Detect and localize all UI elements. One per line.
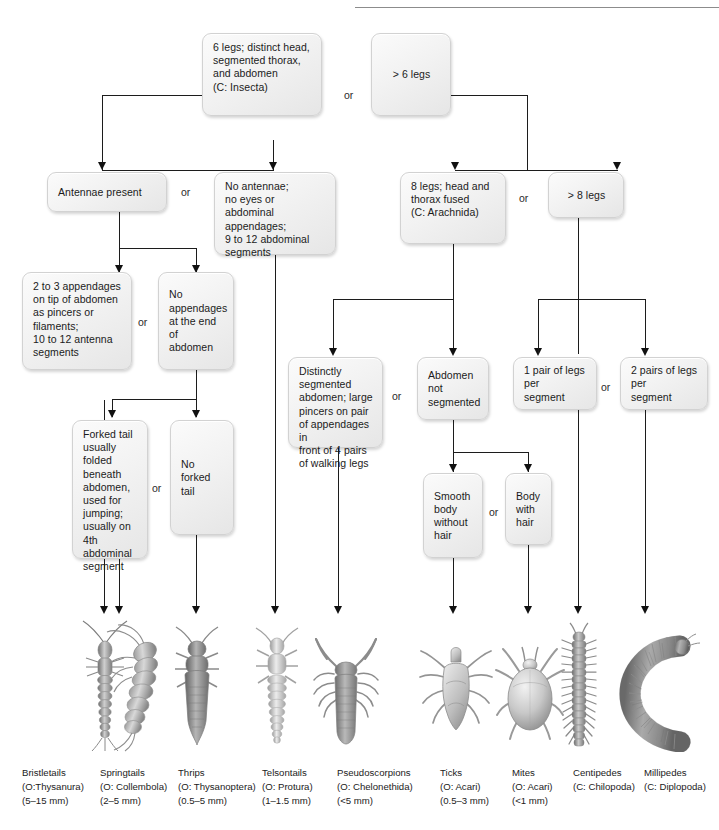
connector-arach-left [333,299,334,354]
node-forked-tail-line3: beneath [83,468,138,481]
node-forked-tail-line5: used for [83,494,138,507]
node-one-pair-per-segment[interactable]: 1 pair of legs per segment [513,357,597,410]
connector-distseg-long [338,448,339,612]
or-label-mite: or [489,506,498,518]
caption-springtails-common: Springtails [100,766,167,780]
node-two-pairs-line1: 2 pairs of legs [631,364,698,377]
node-more-than-8-legs[interactable]: > 8 legs [548,172,624,218]
node-body-with-hair[interactable]: Body with hair [505,473,552,545]
caption-centipedes: Centipedes (C: Chilopoda) [573,766,635,794]
node-more-than-6-legs[interactable]: > 6 legs [371,33,451,116]
node-distinctly-segmented-line4: pincers on pair [299,405,373,418]
node-abdomen-not-segmented-line1: Abdomen [428,369,479,382]
node-two-pairs-line3: segment [631,391,698,404]
node-no-antennae-line5: segments [225,246,326,259]
connector-6legs-right [451,95,528,96]
node-antennae-present-label: Antennae present [58,186,142,199]
caption-springtails-taxon: (O: Collembola) [100,780,167,794]
caption-pseudoscorpions-size: (<5 mm) [337,794,413,808]
node-insecta-line2: segmented thorax, [213,54,312,67]
caption-bristletails-common: Bristletails [22,766,84,780]
caption-thrips-size: (0.5–5 mm) [178,794,256,808]
connector-smooth-long [453,558,454,612]
node-no-forked-tail[interactable]: No forked tail [170,420,234,535]
node-arachnida[interactable]: 8 legs; head and thorax fused (C: Arachn… [400,172,506,244]
node-no-antennae-line4: 9 to 12 abdominal [225,233,326,246]
illustration-pseudoscorpions [305,636,387,750]
node-forked-tail-line1: Forked tail [83,428,138,441]
page-rule [355,7,719,8]
caption-thrips-common: Thrips [178,766,256,780]
connector-noforked-long [196,535,197,612]
node-no-appendages-line2: appendages [169,302,224,315]
illustration-centipedes [558,622,600,752]
node-forked-tail[interactable]: Forked tail usually folded beneath abdom… [72,420,148,559]
connector-8legs-left-leg2 [538,299,539,354]
node-two-pairs-line2: per [631,377,698,390]
caption-centipedes-common: Centipedes [573,766,635,780]
caption-ticks-taxon: (O: Acari) [440,780,489,794]
connector-8legs-bus-left-ext [538,299,579,300]
arrow-to-forked-tail [108,410,116,418]
node-smooth-body-line1: Smooth [434,490,473,503]
node-two-pairs-per-segment[interactable]: 2 pairs of legs per segment [620,357,708,410]
node-distinctly-segmented-line6: front of 4 pairs [299,444,373,457]
connector-8legs-down [578,218,579,300]
connector-arach-bus [333,299,454,300]
node-distinctly-segmented[interactable]: Distinctly segmented abdomen; large pinc… [288,357,383,448]
node-no-appendages-line4: abdomen [169,341,224,354]
node-arachnida-line2: thorax fused [411,193,496,206]
arrow-to-distinctly-segmented [329,348,337,356]
node-2-3-appendages-line3: as pincers or [33,306,122,319]
node-no-appendages[interactable]: No appendages at the end of abdomen [158,272,234,370]
node-antennae-present[interactable]: Antennae present [47,172,167,212]
node-no-antennae-line3: appendages; [225,220,326,233]
node-abdomen-not-segmented[interactable]: Abdomen not segmented [417,357,489,420]
node-distinctly-segmented-line7: of walking legs [299,457,373,470]
caption-ticks-size: (0.5–3 mm) [440,794,489,808]
node-2-3-appendages-line4: filaments; [33,320,122,333]
node-2-3-appendages[interactable]: 2 to 3 appendages on tip of abdomen as p… [22,272,132,370]
node-2-3-appendages-line6: segments [33,346,122,359]
node-smooth-body-line4: hair [434,529,473,542]
illustration-ticks [418,640,494,748]
arrow-to-smooth-body [449,464,457,472]
node-insecta[interactable]: 6 legs; distinct head, segmented thorax,… [202,33,322,116]
node-body-with-hair-line1: Body [516,490,542,503]
caption-telsontails: Telsontails (O: Protura) (1–1.5 mm) [262,766,313,809]
or-label-arachnid-top: or [519,192,528,204]
node-one-pair-line3: segment [524,391,587,404]
caption-bristletails-size: (5–15 mm) [22,794,84,808]
caption-thrips: Thrips (O: Thysanoptera) (0.5–5 mm) [178,766,256,809]
node-abdomen-not-segmented-line3: segmented [428,396,479,409]
node-insecta-line4: (C: Insecta) [213,81,312,94]
node-more-than-8-legs-label: > 8 legs [568,189,605,202]
connector-no-antennae-long [275,255,276,612]
node-smooth-body[interactable]: Smooth body without hair [423,473,483,558]
node-smooth-body-line3: without [434,516,473,529]
node-forked-tail-line7: usually on [83,520,138,533]
caption-millipedes-common: Millipedes [644,766,706,780]
node-distinctly-segmented-line5: of appendages in [299,418,373,444]
node-2-3-appendages-line2: on tip of abdomen [33,293,122,306]
node-smooth-body-line2: body [434,503,473,516]
arrow-to-two-pairs [641,348,649,356]
node-distinctly-segmented-line3: abdomen; large [299,391,373,404]
node-body-with-hair-line3: hair [516,516,542,529]
arrow-to-millipedes [641,606,649,614]
node-distinctly-segmented-line1: Distinctly [299,365,373,378]
connector-abdnot-down [453,420,454,453]
connector-antennae-down [119,212,120,249]
caption-mites-common: Mites [512,766,553,780]
arrow-to-bristletails [100,606,108,614]
node-abdomen-not-segmented-line2: not [428,382,479,395]
illustration-mites [494,645,566,747]
caption-thrips-taxon: (O: Thysanoptera) [178,780,256,794]
arrow-to-ticks [449,606,457,614]
node-no-antennae[interactable]: No antennae; no eyes or abdominal append… [214,172,336,255]
connector-noappend-bus [112,399,197,400]
caption-springtails-size: (2–5 mm) [100,794,167,808]
arrow-to-abdomen-not-segmented [449,348,457,356]
arrow-to-mites [524,606,532,614]
caption-bristletails-taxon: (O:Thysanura) [22,780,84,794]
